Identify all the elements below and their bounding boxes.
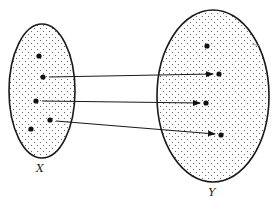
set-y-point [218,132,223,137]
set-x-point [40,74,45,79]
set-y-point [203,100,208,105]
set-y [157,10,269,182]
set-x-point [33,98,38,103]
set-y-ellipse [157,10,269,182]
set-x-point [28,126,33,131]
set-y-label: Y [208,186,217,199]
set-y-point [216,71,221,76]
set-x-point [36,53,41,58]
set-x-ellipse [9,24,75,158]
set-x [9,24,75,158]
set-x-point [47,117,52,122]
set-x-label: X [35,162,45,175]
function-diagram: X Y [0,0,277,205]
set-y-point [204,43,209,48]
